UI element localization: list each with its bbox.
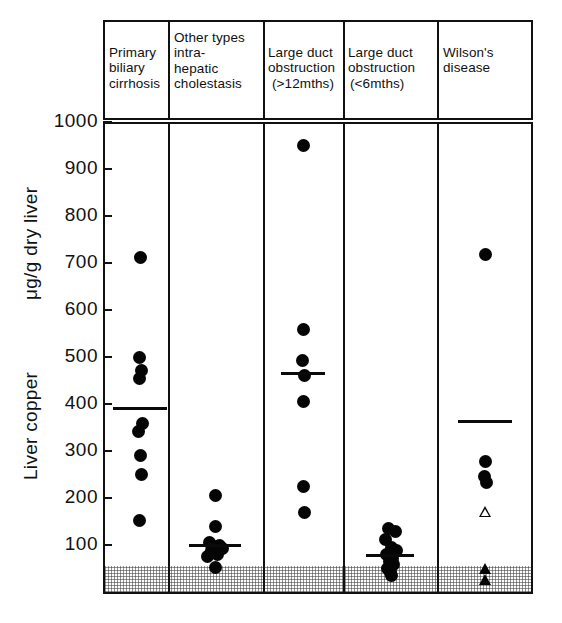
header-line: Other types [174,30,263,45]
y-tick-mark-300 [103,450,112,452]
mean-line-3 [366,554,414,557]
y-tick-mark-600 [103,309,112,311]
data-point-filled-circle [297,395,310,408]
mean-line-0 [113,407,167,410]
header-line: cholestasis [174,76,263,91]
data-point-open-triangle [479,506,491,517]
data-point-filled-circle [134,449,147,462]
data-point-filled-circle [297,139,310,152]
data-point-filled-circle [134,251,147,264]
y-tick-mark-700 [103,262,112,264]
data-point-filled-circle [297,480,310,493]
data-point-filled-circle [385,569,398,582]
y-tick-label-800: 800 [36,204,98,226]
y-tick-mark-1000 [103,121,112,123]
y-tick-label-100: 100 [36,533,98,555]
data-point-filled-circle [479,248,492,261]
header-line: hepatic [174,61,263,76]
header-separator-4 [437,20,439,120]
data-point-filled-circle [132,425,145,438]
y-axis-title-main: Liver copper [20,372,42,480]
header-separator-1 [168,20,170,120]
plot-separator-4 [437,122,439,592]
y-tick-mark-100 [103,544,112,546]
y-tick-mark-800 [103,215,112,217]
column-header-other-intrahepatic-cholestasis: Other types intra- hepatic cholestasis [171,30,263,91]
column-header-primary-biliary-cirrhosis: Primary biliary cirrhosis [106,45,168,91]
y-tick-label-300: 300 [36,439,98,461]
y-tick-mark-400 [103,403,112,405]
data-point-filled-circle [480,476,493,489]
data-point-filled-circle [133,351,146,364]
data-point-filled-circle [298,506,311,519]
mean-line-2 [281,372,325,375]
y-tick-mark-200 [103,497,112,499]
column-header-large-duct-obstruction-over-12mths: Large duct obstruction (>12mths) [265,45,343,91]
header-line: Large duct [348,45,437,60]
y-tick-mark-500 [103,356,112,358]
header-line: Primary [109,45,168,60]
header-line: (>12mths) [268,76,343,91]
mean-line-1 [189,544,241,547]
y-tick-mark-900 [103,168,112,170]
data-point-filled-circle [133,372,146,385]
plot-separator-3 [343,122,345,592]
plot-separator-1 [168,122,170,592]
data-point-filled-circle [209,520,222,533]
header-line: disease [443,60,530,75]
header-line: obstruction [268,60,343,75]
data-point-filled-circle [133,514,146,527]
data-point-filled-circle [297,323,310,336]
data-point-filled-triangle [479,563,491,574]
y-tick-label-1000: 1000 [36,110,98,132]
plot-separator-2 [263,122,265,592]
data-point-filled-circle [296,354,309,367]
header-line: obstruction [348,60,437,75]
y-tick-label-500: 500 [36,345,98,367]
data-point-filled-triangle [479,574,491,585]
chart-figure: Liver copper μg/g dry liver Primary bili… [0,0,562,623]
data-point-filled-circle [135,468,148,481]
header-line: cirrhosis [109,76,168,91]
y-tick-label-600: 600 [36,298,98,320]
mean-line-4 [458,420,512,423]
y-tick-label-900: 900 [36,157,98,179]
header-line: biliary [109,60,168,75]
column-header-wilsons-disease: Wilson's disease [440,45,530,76]
header-line: Wilson's [443,45,530,60]
header-line: (<6mths) [348,76,437,91]
y-tick-label-400: 400 [36,392,98,414]
y-tick-label-700: 700 [36,251,98,273]
header-line: Large duct [268,45,343,60]
data-point-filled-circle [209,561,222,574]
data-point-filled-circle [209,489,222,502]
data-point-filled-circle [479,455,492,468]
column-header-large-duct-obstruction-under-6mths: Large duct obstruction (<6mths) [345,45,437,91]
y-tick-label-200: 200 [36,486,98,508]
header-line: intra- [174,45,263,60]
